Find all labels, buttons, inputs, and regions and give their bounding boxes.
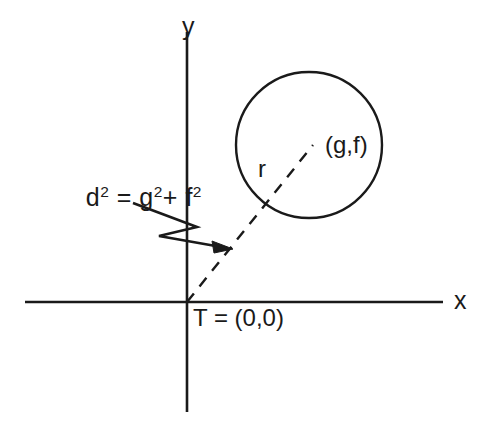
- radius-dashed-line: [187, 145, 313, 302]
- origin-label: T = (0,0): [193, 306, 284, 330]
- formula-equals-g: = g: [109, 183, 153, 211]
- axis-label-y: y: [182, 14, 195, 39]
- distance-formula-annotation: d2 = g2+ f2: [56, 160, 202, 235]
- circle-radius-label: r: [258, 157, 266, 181]
- diagram-canvas: y x T = (0,0) (g,f) r d2 = g2+ f2: [0, 0, 490, 438]
- axis-label-x: x: [454, 288, 467, 313]
- formula-plus-f: + f: [163, 183, 193, 211]
- formula-exponent-f: 2: [193, 183, 202, 200]
- formula-exponent-g: 2: [154, 183, 163, 200]
- formula-term-d: d: [86, 183, 100, 211]
- formula-exponent-d: 2: [100, 183, 109, 200]
- circle-center-label: (g,f): [325, 133, 368, 157]
